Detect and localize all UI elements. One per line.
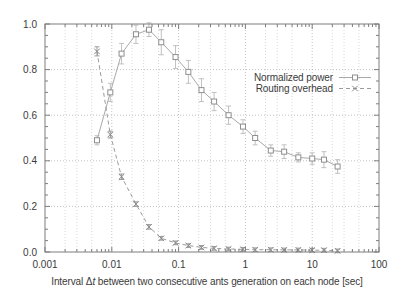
data-point-marker [240,124,245,129]
legend-label: Normalized power [254,72,334,83]
data-point-marker [108,90,113,95]
error-bars [94,23,340,253]
data-point-marker [173,55,178,60]
x-tick-labels: 0.0010.010.1110100 [32,259,387,270]
x-tick-label: 0.01 [102,259,122,270]
data-point-marker [310,156,315,161]
y-tick-label: 0.4 [23,155,37,166]
x-tick-label: 1 [243,259,249,270]
data-point-marker [282,149,287,154]
data-point-marker [321,157,326,162]
y-tick-label: 1.0 [23,19,37,30]
y-tick-labels: 0.00.20.40.60.81.0 [23,19,37,258]
data-point-marker [119,51,124,56]
data-point-marker [212,99,217,104]
ants-interval-chart: 0.0010.010.1110100 0.00.20.40.60.81.0 No… [0,0,408,296]
data-point-marker [226,113,231,118]
data-point-marker [133,32,138,37]
y-tick-label: 0.6 [23,110,37,121]
data-point-marker [146,27,151,32]
data-point-marker [159,40,164,45]
data-point-marker [186,69,191,74]
legend-sample-marker [353,75,358,80]
data-point-marker [296,155,301,160]
series-lines [97,30,338,251]
data-point-marker [253,136,258,141]
legend-row-routing-overhead: Routing overhead [256,83,371,94]
series-markers-normalized-power [94,27,340,169]
data-point-marker [94,138,99,143]
data-point-marker [199,88,204,93]
series-line-normalized-power [97,30,338,167]
x-tick-label: 0.001 [32,259,57,270]
x-tick-label: 0.1 [172,259,186,270]
x-tick-label: 100 [371,259,388,270]
y-tick-label: 0.2 [23,201,37,212]
data-point-marker [335,164,340,169]
y-tick-label: 0.8 [23,64,37,75]
legend-label: Routing overhead [256,83,333,94]
legend: Normalized powerRouting overhead [254,72,371,94]
y-tick-label: 0.0 [23,247,37,258]
series-markers [94,27,340,253]
x-axis-title: Interval Δt between two consecutive ants… [51,276,363,287]
x-tick-label: 10 [307,259,319,270]
data-point-marker [268,148,273,153]
chart-container: 0.0010.010.1110100 0.00.20.40.60.81.0 No… [0,0,408,296]
legend-row-normalized-power: Normalized power [254,72,371,83]
